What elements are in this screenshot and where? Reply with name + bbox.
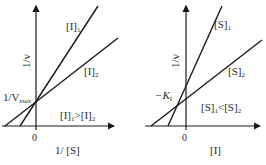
left-x-label: 1/ [S]	[55, 144, 80, 156]
left-y-label: 1/v	[20, 53, 32, 68]
left-origin-label: 0	[32, 132, 37, 143]
right-line-s2-label: [S]2	[228, 65, 245, 79]
right-relation-label: [S]1<[S]2	[201, 101, 242, 115]
left-panel: 1/v 0 1/ [S] 1/Vmax [I]1 [I]2 [I]1>[I]2	[2, 6, 118, 156]
right-panel: 1/v 0 [I] −KI [S]1 [S]2 [S]1<[S]2	[145, 6, 262, 156]
right-line-s1-label: [S]1	[214, 18, 231, 32]
right-line-s2	[151, 40, 262, 126]
left-intercept-label: 1/Vmax	[3, 91, 32, 105]
enzyme-inhibition-diagram: 1/v 0 1/ [S] 1/Vmax [I]1 [I]2 [I]1>[I]2 …	[0, 0, 266, 165]
left-relation-label: [I]1>[I]2	[60, 109, 96, 123]
left-line-i1-label: [I]1	[66, 20, 81, 34]
right-intercept-label: −KI	[155, 89, 173, 103]
right-y-label: 1/v	[169, 53, 181, 68]
right-origin-label: 0	[182, 132, 187, 143]
right-x-label: [I]	[210, 144, 221, 156]
left-line-i2-label: [I]2	[84, 65, 99, 79]
